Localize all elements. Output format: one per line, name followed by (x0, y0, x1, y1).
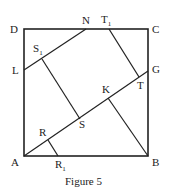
label-R: R (39, 126, 47, 138)
label-G: G (152, 63, 160, 75)
segment-T1T (109, 29, 139, 77)
label-L: L (12, 64, 19, 76)
segment-AG (24, 71, 148, 156)
label-D: D (10, 23, 18, 35)
label-S1: S1 (33, 42, 43, 57)
label-K: K (102, 83, 110, 95)
figure-caption: Figure 5 (65, 175, 102, 187)
label-T1: T1 (101, 13, 112, 28)
segment-KB (108, 98, 148, 156)
label-S: S (79, 118, 85, 130)
label-C: C (152, 23, 159, 35)
label-T: T (137, 79, 144, 91)
label-R1: R1 (55, 158, 66, 173)
label-A: A (11, 156, 19, 168)
label-N: N (82, 14, 90, 26)
segment-RR1 (48, 140, 58, 156)
segment-S1S (42, 59, 80, 119)
geometry-figure: D C N T1 S1 L G K T S R A R1 B Figure 5 (0, 0, 176, 195)
label-B: B (152, 156, 159, 168)
